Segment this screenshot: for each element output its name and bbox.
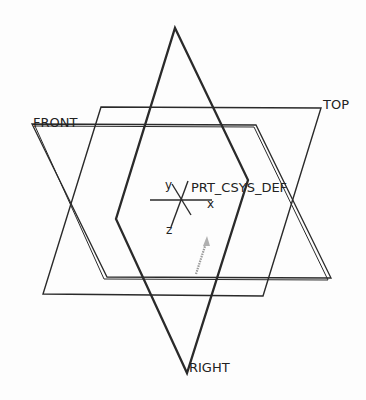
datum-plane-drawing: FRONT TOP RIGHT PRT_CSYS_DEF y x z — [0, 0, 366, 400]
csys-label: PRT_CSYS_DEF — [191, 180, 287, 195]
front-datum-plane[interactable] — [32, 124, 331, 280]
y-axis-label: y — [165, 178, 172, 192]
top-plane-label: TOP — [322, 97, 349, 112]
right-plane-label: RIGHT — [189, 360, 230, 375]
z-axis-label: z — [166, 223, 172, 237]
x-axis-label: x — [207, 197, 214, 211]
cad-viewport[interactable]: FRONT TOP RIGHT PRT_CSYS_DEF y x z — [0, 0, 366, 400]
direction-arrow-icon — [196, 236, 210, 274]
front-plane-label: FRONT — [33, 115, 77, 130]
